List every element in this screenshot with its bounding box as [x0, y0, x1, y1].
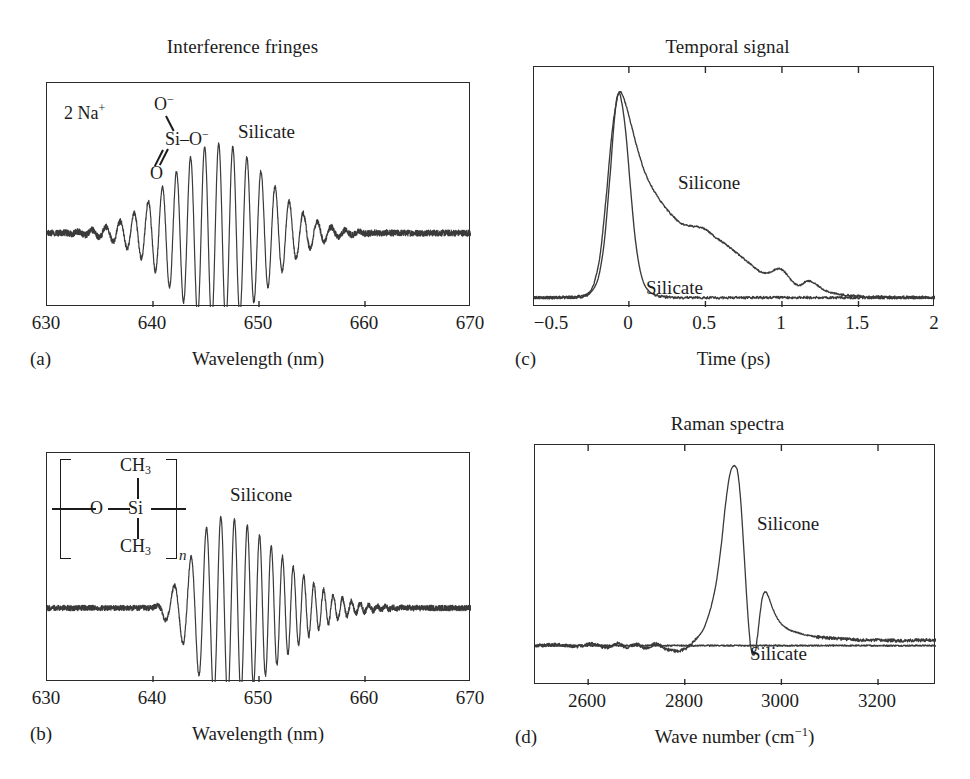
xtick-2800: 2800: [665, 690, 703, 712]
panel-a: Interference fringes 2 Na+ O− Si–O− O Si…: [0, 0, 485, 390]
panel-c-silicate-label: Silicate: [646, 277, 703, 299]
methyl-bottom: CH3: [120, 537, 151, 555]
panel-d: Raman spectra Silicone Silicate 2600 280…: [485, 390, 970, 779]
panel-d-xtick-labels: 2600 2800 3000 3200: [534, 690, 935, 716]
xtick-1: 1: [776, 312, 786, 334]
xtick-640: 640: [138, 687, 167, 709]
panel-b-curve-label: Silicone: [230, 484, 292, 506]
panel-b: O Si CH3 CH3 n Silicone 630 640 650 660 …: [0, 390, 485, 779]
xtick-0p5: 0.5: [692, 312, 716, 334]
xtick-670: 670: [456, 312, 485, 334]
panel-a-curve-label: Silicate: [238, 121, 295, 143]
xtick-660: 660: [350, 687, 379, 709]
xtick-660: 660: [350, 312, 379, 334]
xtick-630: 630: [32, 312, 61, 334]
bond-o-si: [108, 508, 130, 510]
panel-b-xtick-labels: 630 640 650 660 670: [46, 687, 470, 713]
oxygen-top-atom: O−: [154, 95, 174, 113]
xtick-650: 650: [244, 312, 273, 334]
xtick-3200: 3200: [858, 690, 896, 712]
oxygen-atom: O: [90, 499, 103, 517]
panel-c-silicone-label: Silicone: [678, 172, 740, 194]
panel-c-xtick-labels: −0.5 0 0.5 1 1.5 2: [533, 312, 934, 338]
panel-c-xaxis-title: Time (ps): [533, 348, 934, 370]
panel-d-title: Raman spectra: [485, 413, 970, 435]
xtick-670: 670: [456, 687, 485, 709]
silicon-atom: Si: [128, 499, 143, 517]
panel-c-title: Temporal signal: [485, 36, 970, 58]
xtick-650: 650: [244, 687, 273, 709]
repeat-subscript-n: n: [179, 548, 187, 563]
bond-si-methyl-top: [137, 478, 139, 499]
panel-d-silicone-label: Silicone: [757, 513, 819, 535]
panel-d-curve-area: [535, 445, 936, 685]
panel-a-xaxis-title: Wavelength (nm): [46, 348, 470, 370]
xtick-2: 2: [929, 312, 939, 334]
oxygen-bottom-atom: O: [150, 164, 163, 182]
panel-a-title: Interference fringes: [0, 36, 485, 58]
xtick-3000: 3000: [761, 690, 799, 712]
xtick-630: 630: [32, 687, 61, 709]
silicon-atom: Si–O−: [165, 130, 209, 148]
xtick-0: 0: [623, 312, 633, 334]
panel-d-plot-frame: [534, 444, 935, 684]
xtick-1p5: 1.5: [845, 312, 869, 334]
panel-d-xaxis-title: Wave number (cm−1): [534, 726, 935, 748]
silicate-structure: 2 Na+ O− Si–O− O: [46, 82, 470, 212]
panel-a-xtick-labels: 630 640 650 660 670: [46, 312, 470, 338]
panel-d-xaxis-title-text: Wave number (cm−1): [655, 726, 815, 747]
silicone-structure: O Si CH3 CH3 n: [46, 452, 470, 592]
xtick-neg0p5: −0.5: [534, 312, 568, 334]
xtick-2600: 2600: [568, 690, 606, 712]
xtick-640: 640: [138, 312, 167, 334]
panel-b-xaxis-title: Wavelength (nm): [46, 723, 470, 745]
bond-backbone-right: [151, 508, 186, 510]
methyl-top: CH3: [120, 456, 151, 474]
panel-d-silicate-label: Silicate: [750, 643, 807, 665]
sodium-counterion: 2 Na+: [64, 104, 105, 122]
panel-c: Temporal signal Silicone Silicate −0.5 0…: [485, 0, 970, 390]
